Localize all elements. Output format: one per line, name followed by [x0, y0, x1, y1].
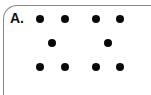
dot — [48, 39, 56, 47]
dot — [36, 15, 44, 23]
figure-panel — [3, 5, 151, 95]
dot — [36, 63, 44, 71]
dot — [104, 39, 112, 47]
dot — [92, 15, 100, 23]
dot — [116, 63, 124, 71]
panel-label: A. — [10, 10, 24, 26]
dot — [61, 63, 69, 71]
dot — [116, 15, 124, 23]
dot — [92, 63, 100, 71]
dot — [61, 15, 69, 23]
